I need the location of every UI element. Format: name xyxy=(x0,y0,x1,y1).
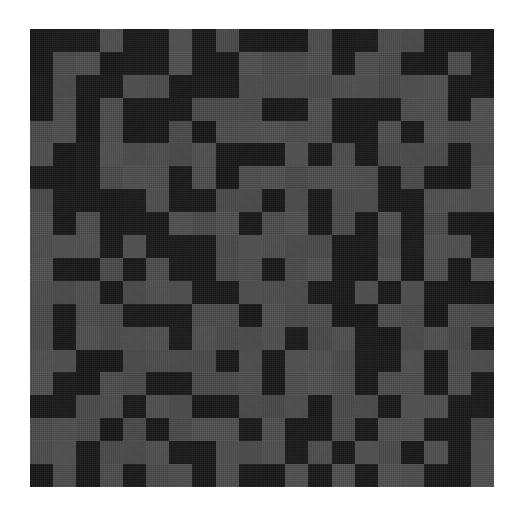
mosaic-cell xyxy=(76,143,99,166)
mosaic-cell xyxy=(192,281,215,304)
mosaic-cell xyxy=(100,143,123,166)
mosaic-cell xyxy=(378,143,401,166)
mosaic-cell xyxy=(146,235,169,258)
mosaic-cell xyxy=(262,121,285,144)
mosaic-cell xyxy=(53,121,76,144)
mosaic-cell xyxy=(308,304,331,327)
mosaic-cell xyxy=(100,75,123,98)
mosaic-cell xyxy=(239,464,262,487)
mosaic-cell xyxy=(53,395,76,418)
mosaic-cell xyxy=(285,75,308,98)
mosaic-cell xyxy=(239,441,262,464)
mosaic-cell xyxy=(146,143,169,166)
mosaic-cell xyxy=(471,235,494,258)
mosaic-cell xyxy=(285,350,308,373)
mosaic-cell xyxy=(378,235,401,258)
mosaic-cell xyxy=(262,464,285,487)
mosaic-cell xyxy=(192,395,215,418)
mosaic-cell xyxy=(169,235,192,258)
mosaic-cell xyxy=(355,304,378,327)
mosaic-cell xyxy=(53,235,76,258)
mosaic-cell xyxy=(424,212,447,235)
mosaic-cell xyxy=(308,75,331,98)
mosaic-cell xyxy=(285,98,308,121)
mosaic-cell xyxy=(378,418,401,441)
mosaic-cell xyxy=(239,75,262,98)
mosaic-cell xyxy=(30,464,53,487)
mosaic-cell xyxy=(169,418,192,441)
mosaic-cell xyxy=(169,75,192,98)
mosaic-cell xyxy=(146,327,169,350)
mosaic-cell xyxy=(100,441,123,464)
mosaic-cell xyxy=(355,143,378,166)
mosaic-cell xyxy=(216,98,239,121)
mosaic-cell xyxy=(76,52,99,75)
mosaic-cell xyxy=(355,121,378,144)
mosaic-cell xyxy=(448,350,471,373)
mosaic-cell xyxy=(471,350,494,373)
mosaic-cell xyxy=(355,258,378,281)
mosaic-cell xyxy=(169,29,192,52)
mosaic-cell xyxy=(285,418,308,441)
mosaic-cell xyxy=(123,29,146,52)
mosaic-cell xyxy=(76,29,99,52)
mosaic-cell xyxy=(308,258,331,281)
mosaic-cell xyxy=(262,441,285,464)
mosaic-cell xyxy=(76,235,99,258)
mosaic-cell xyxy=(53,418,76,441)
mosaic-cell xyxy=(146,441,169,464)
mosaic-cell xyxy=(239,189,262,212)
mosaic-cell xyxy=(216,75,239,98)
mosaic-cell xyxy=(123,75,146,98)
mosaic-cell xyxy=(262,258,285,281)
mosaic-cell xyxy=(76,464,99,487)
mosaic-cell xyxy=(146,350,169,373)
mosaic-cell xyxy=(123,143,146,166)
mosaic-cell xyxy=(123,98,146,121)
mosaic-cell xyxy=(332,395,355,418)
mosaic-cell xyxy=(308,166,331,189)
mosaic-cell xyxy=(285,327,308,350)
mosaic-cell xyxy=(146,212,169,235)
mosaic-cell xyxy=(100,258,123,281)
mosaic-cell xyxy=(192,441,215,464)
mosaic-cell xyxy=(100,98,123,121)
mosaic-cell xyxy=(471,464,494,487)
mosaic-cell xyxy=(216,29,239,52)
mosaic-cell xyxy=(239,98,262,121)
mosaic-cell xyxy=(100,52,123,75)
mosaic-cell xyxy=(53,143,76,166)
mosaic-cell xyxy=(146,258,169,281)
mosaic-cell xyxy=(53,189,76,212)
mosaic-cell xyxy=(239,121,262,144)
mosaic-cell xyxy=(192,327,215,350)
mosaic-cell xyxy=(30,143,53,166)
mosaic-cell xyxy=(216,166,239,189)
mosaic-cell xyxy=(471,75,494,98)
mosaic-cell xyxy=(401,304,424,327)
mosaic-cell xyxy=(355,212,378,235)
mosaic-cell xyxy=(355,235,378,258)
mosaic-cell xyxy=(355,166,378,189)
mosaic-cell xyxy=(378,52,401,75)
mosaic-cell xyxy=(332,189,355,212)
mosaic-cell xyxy=(123,258,146,281)
mosaic-cell xyxy=(355,98,378,121)
mosaic-cell xyxy=(262,350,285,373)
mosaic-cell xyxy=(471,212,494,235)
mosaic-cell xyxy=(76,212,99,235)
mosaic-cell xyxy=(100,327,123,350)
mosaic-cell xyxy=(100,29,123,52)
mosaic-cell xyxy=(169,304,192,327)
mosaic-cell xyxy=(169,166,192,189)
mosaic-cell xyxy=(332,75,355,98)
mosaic-cell xyxy=(332,304,355,327)
mosaic-cell xyxy=(401,235,424,258)
mosaic-cell xyxy=(100,304,123,327)
mosaic-cell xyxy=(169,98,192,121)
mosaic-cell xyxy=(285,52,308,75)
mosaic-cell xyxy=(355,29,378,52)
mosaic-cell xyxy=(401,143,424,166)
mosaic-cell xyxy=(216,281,239,304)
mosaic-cell xyxy=(53,75,76,98)
